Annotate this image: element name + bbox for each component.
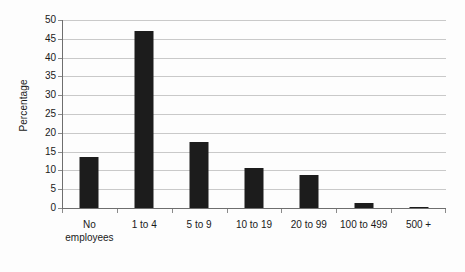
y-axis-tick-mark xyxy=(58,133,62,134)
bar[interactable] xyxy=(299,175,318,208)
bars xyxy=(62,20,446,208)
x-axis-tick-labels: Noemployees1 to 45 to 910 to 1920 to 991… xyxy=(62,218,446,258)
x-axis-tick-mark xyxy=(391,209,392,213)
bar[interactable] xyxy=(80,157,99,208)
x-axis-tick-label: 20 to 99 xyxy=(281,218,336,231)
x-axis-tick-label: 10 to 19 xyxy=(227,218,282,231)
y-axis-tick-mark xyxy=(58,20,62,21)
y-axis-tick-mark xyxy=(58,95,62,96)
x-axis-tick-label-line: 500 + xyxy=(391,218,446,231)
y-axis-tick-mark xyxy=(58,76,62,77)
y-axis-tick-label: 40 xyxy=(32,53,56,63)
x-axis-tick-label: 5 to 9 xyxy=(172,218,227,231)
y-axis-line xyxy=(62,20,63,209)
y-axis-tick-mark xyxy=(58,170,62,171)
bar-slot xyxy=(336,20,391,208)
x-axis-tick-mark xyxy=(172,209,173,213)
x-axis-tick-label-line: 20 to 99 xyxy=(281,218,336,231)
bar[interactable] xyxy=(190,142,209,208)
x-axis-tick-mark xyxy=(117,209,118,213)
bar-slot xyxy=(227,20,282,208)
y-axis-title: Percentage xyxy=(14,0,32,210)
bar[interactable] xyxy=(135,31,154,208)
y-axis-tick-label: 5 xyxy=(32,184,56,194)
bar-slot xyxy=(391,20,446,208)
y-axis-title-text: Percentage xyxy=(18,79,29,131)
x-axis-tick-label: Noemployees xyxy=(62,218,117,244)
y-axis-tick-mark xyxy=(58,114,62,115)
x-axis-tick-label-line: 10 to 19 xyxy=(227,218,282,231)
y-axis-tick-mark xyxy=(58,39,62,40)
x-axis-tick-label-line: 5 to 9 xyxy=(172,218,227,231)
x-axis-tick-label-line: employees xyxy=(62,231,117,244)
y-axis-tick-label: 30 xyxy=(32,90,56,100)
x-axis-tick-label-line: 100 to 499 xyxy=(336,218,391,231)
y-axis-tick-label: 15 xyxy=(32,147,56,157)
bar[interactable] xyxy=(244,168,263,208)
plot-area xyxy=(62,20,446,208)
y-axis-tick-label: 45 xyxy=(32,34,56,44)
x-axis-tick-label: 1 to 4 xyxy=(117,218,172,231)
y-axis-tick-labels: 05101520253035404550 xyxy=(32,20,56,208)
x-axis-tick-label-line: 1 to 4 xyxy=(117,218,172,231)
y-axis-tick-label: 0 xyxy=(32,203,56,213)
y-axis-tick-label: 20 xyxy=(32,128,56,138)
x-axis-tick-label: 100 to 499 xyxy=(336,218,391,231)
bar-slot xyxy=(62,20,117,208)
x-axis-tick-mark xyxy=(281,209,282,213)
bar-slot xyxy=(281,20,336,208)
bar-slot xyxy=(172,20,227,208)
x-axis-tick-mark xyxy=(62,209,63,213)
x-axis-tick-label: 500 + xyxy=(391,218,446,231)
bar-slot xyxy=(117,20,172,208)
x-axis-tick-mark xyxy=(227,209,228,213)
y-axis-tick-mark xyxy=(58,58,62,59)
x-axis-tick-mark xyxy=(445,209,446,213)
y-axis-tick-label: 35 xyxy=(32,71,56,81)
y-axis-tick-mark xyxy=(58,152,62,153)
x-axis-tick-label-line: No xyxy=(62,218,117,231)
y-axis-tick-label: 25 xyxy=(32,109,56,119)
bar-chart: Percentage 05101520253035404550 Noemploy… xyxy=(0,0,465,272)
y-axis-tick-label: 10 xyxy=(32,165,56,175)
y-axis-tick-label: 50 xyxy=(32,15,56,25)
x-axis-tick-marks xyxy=(62,209,446,214)
y-axis-tick-mark xyxy=(58,189,62,190)
x-axis-tick-mark xyxy=(336,209,337,213)
y-axis-tick-mark xyxy=(58,208,62,209)
